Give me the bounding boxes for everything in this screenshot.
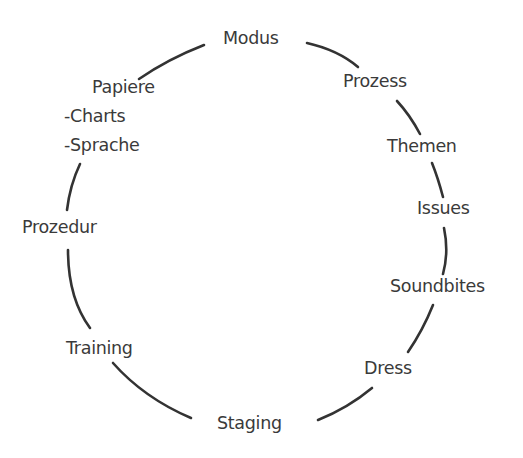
node-themen: Themen (387, 138, 457, 156)
node-papiere-subitem-charts: -Charts (64, 108, 125, 126)
arc-soundbites-dress (408, 305, 433, 352)
arc-prozess-themen (397, 101, 420, 134)
arc-prozedur-papiere (67, 164, 80, 210)
node-papiere: Papiere (92, 79, 155, 97)
arc-staging-training (113, 363, 191, 418)
node-prozedur: Prozedur (22, 219, 97, 237)
arc-dress-staging (318, 388, 372, 420)
arc-papiere-modus (139, 45, 204, 79)
node-papiere-subitem-sprache: -Sprache (64, 137, 140, 155)
arc-issues-soundbites (443, 228, 446, 274)
cycle-diagram: Modus Prozess Themen Issues Soundbites D… (0, 0, 523, 458)
arc-training-prozedur (68, 250, 90, 328)
arc-modus-prozess (307, 43, 358, 67)
node-prozess: Prozess (343, 73, 407, 91)
node-dress: Dress (364, 360, 412, 378)
node-issues: Issues (417, 200, 470, 218)
node-soundbites: Soundbites (390, 278, 485, 296)
node-staging: Staging (217, 415, 282, 433)
node-training: Training (66, 340, 133, 358)
node-modus: Modus (223, 30, 279, 48)
arc-themen-issues (432, 163, 443, 197)
